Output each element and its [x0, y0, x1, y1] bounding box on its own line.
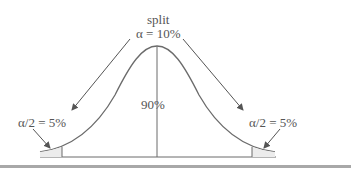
arrow-left-small [33, 129, 50, 148]
bottom-rule [0, 165, 351, 168]
right-tail-label: α/2 = 5% [249, 116, 297, 130]
alpha-label: α = 10% [136, 27, 180, 41]
arrow-to-right-tail [183, 39, 243, 110]
left-tail-area [40, 147, 62, 157]
arrow-to-left-tail [72, 39, 130, 110]
left-tail-label: α/2 = 5% [18, 116, 66, 130]
right-tail-area [252, 147, 275, 157]
center-percent-label: 90% [141, 98, 165, 112]
arrow-right-small [264, 129, 280, 148]
split-label: split [147, 13, 169, 27]
